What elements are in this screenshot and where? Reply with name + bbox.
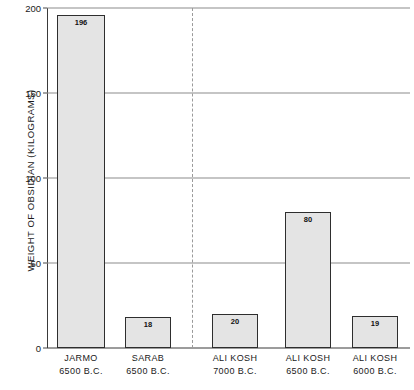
bar-value-label: 19	[353, 320, 397, 328]
y-tick-label-50: 50	[30, 258, 41, 269]
y-tick-label-0: 0	[36, 343, 41, 354]
x-axis-label: JARMO6500 B.C.	[57, 352, 105, 378]
x-axis-site-name: ALI KOSH	[212, 352, 258, 365]
y-tick-label-200: 200	[25, 3, 41, 14]
bar: 18	[125, 317, 171, 348]
x-axis-date: 6500 B.C.	[285, 365, 331, 378]
x-axis-site-name: ALI KOSH	[352, 352, 398, 365]
y-tick-label-100: 100	[25, 173, 41, 184]
x-axis-date: 7000 B.C.	[212, 365, 258, 378]
y-tick-label-150: 150	[25, 88, 41, 99]
bar: 196	[57, 15, 105, 348]
bar: 80	[285, 212, 331, 348]
x-axis-label: SARAB6500 B.C.	[125, 352, 171, 378]
x-axis-date: 6500 B.C.	[125, 365, 171, 378]
x-axis-date: 6500 B.C.	[57, 365, 105, 378]
bar: 20	[212, 314, 258, 348]
bar-value-label: 80	[286, 216, 330, 224]
x-axis-date: 6000 B.C.	[352, 365, 398, 378]
x-axis-site-name: ALI KOSH	[285, 352, 331, 365]
obsidian-weight-bar-chart: WEIGHT OF OBSIDIAN (KILOGRAMS) 050100150…	[0, 0, 414, 390]
x-axis-label: ALI KOSH7000 B.C.	[212, 352, 258, 378]
x-axis-labels: JARMO6500 B.C.SARAB6500 B.C.ALI KOSH7000…	[47, 352, 410, 388]
x-axis-label: ALI KOSH6000 B.C.	[352, 352, 398, 378]
bar-value-label: 20	[213, 318, 257, 326]
bars-layer: 19618208019	[47, 8, 410, 348]
bar-value-label: 196	[58, 19, 104, 27]
x-axis-label: ALI KOSH6500 B.C.	[285, 352, 331, 378]
bar-value-label: 18	[126, 321, 170, 329]
bar: 19	[352, 316, 398, 348]
x-axis-site-name: SARAB	[125, 352, 171, 365]
x-axis-site-name: JARMO	[57, 352, 105, 365]
plot-area: 050100150200 19618208019	[47, 8, 410, 348]
